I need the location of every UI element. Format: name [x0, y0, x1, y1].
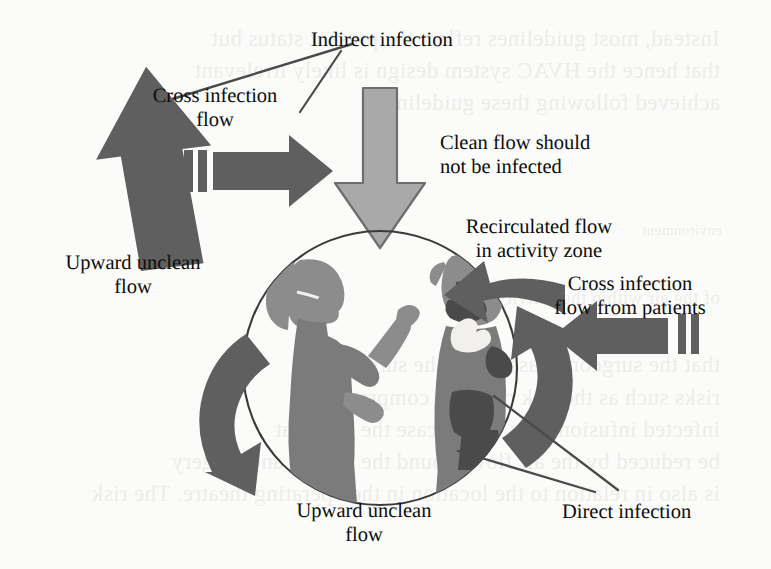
label-cross-infection-flow: Cross infectionflow	[153, 84, 278, 132]
label-upward-unclean-bottom-line-1: flow	[297, 523, 432, 547]
clean-flow-arrow	[335, 88, 425, 248]
caregiver-figure	[266, 259, 420, 518]
label-upward-unclean-bottom-line-0: Upward unclean	[297, 499, 432, 523]
label-upward-unclean-left-line-1: flow	[66, 275, 201, 299]
label-cross-infection-patients-line-1: flow from patients	[554, 296, 705, 320]
label-indirect-infection: Indirect infection	[311, 28, 453, 52]
label-upward-unclean-left-line-0: Upward unclean	[66, 251, 201, 275]
leader-indirect-infection-b	[300, 51, 341, 112]
label-recirculated-flow-line-0: Recirculated flow	[466, 215, 612, 239]
label-upward-unclean-bottom: Upward uncleanflow	[297, 499, 432, 547]
diagram-canvas: Instead, most guidelines reflect the pre…	[0, 0, 771, 569]
label-upward-unclean-left: Upward uncleanflow	[66, 251, 201, 299]
label-direct-infection-line-0: Direct infection	[562, 500, 691, 524]
label-direct-infection: Direct infection	[562, 500, 691, 524]
upward-unclean-arrow-bottom-left	[199, 334, 270, 496]
label-cross-infection-patients: Cross infectionflow from patients	[554, 272, 705, 320]
label-indirect-infection-line-0: Indirect infection	[311, 28, 453, 52]
label-recirculated-flow-line-1: in activity zone	[466, 239, 612, 263]
label-cross-infection-flow-line-0: Cross infection	[153, 84, 278, 108]
label-cross-infection-flow-line-1: flow	[153, 108, 278, 132]
label-cross-infection-patients-line-0: Cross infection	[554, 272, 705, 296]
label-clean-flow: Clean flow shouldnot be infected	[440, 131, 590, 179]
label-recirculated-flow: Recirculated flowin activity zone	[466, 215, 612, 263]
label-clean-flow-line-0: Clean flow should	[440, 131, 590, 155]
label-clean-flow-line-1: not be infected	[440, 155, 590, 179]
